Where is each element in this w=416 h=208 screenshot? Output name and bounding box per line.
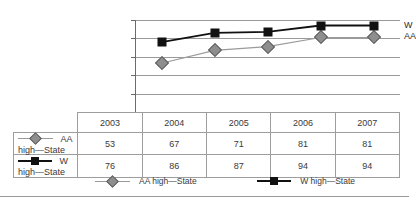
table-cell-w-2006: 94 — [271, 155, 335, 177]
table-cell-aa-2005: 71 — [206, 133, 270, 155]
table-row: W high—State 76 86 87 94 94 — [14, 155, 400, 177]
aa-series-legend-icon — [95, 177, 130, 186]
table-header-2006: 2006 — [271, 113, 335, 133]
end-annotation-aa: AA — [404, 32, 416, 41]
legend-item-aa: AA high—State — [95, 176, 197, 186]
legend-label-w: W high—State — [300, 176, 355, 186]
aa-series-key-icon — [18, 134, 53, 143]
bottom-divider — [0, 196, 409, 197]
plot-area: 100806040200 AAW — [135, 20, 400, 112]
table-cell-w-2007: 94 — [335, 155, 399, 177]
chart-legend: AA high—State W high—State — [95, 176, 355, 186]
table-cell-aa-2004: 67 — [142, 133, 206, 155]
legend-label-aa: AA high—State — [139, 176, 197, 186]
table-row: AA high—State 53 67 71 81 81 — [14, 133, 400, 155]
table-cell-aa-2003: 53 — [78, 133, 142, 155]
data-point-w-2005 — [263, 27, 272, 36]
data-point-w-2006 — [316, 21, 325, 30]
data-point-w-2007 — [369, 21, 378, 30]
table-corner-cell — [14, 113, 78, 133]
legend-item-w: W high—State — [257, 176, 355, 186]
table-row-label-w: W high—State — [14, 155, 78, 177]
end-annotation-w: W — [404, 21, 413, 30]
data-point-w-2003 — [157, 38, 166, 47]
table-header-row: 2003 2004 2005 2006 2007 — [14, 113, 400, 133]
table-cell-w-2005: 87 — [206, 155, 270, 177]
data-table: 2003 2004 2005 2006 2007 AA high—State 5… — [13, 112, 400, 178]
table-header-2004: 2004 — [142, 113, 206, 133]
table-row-label-aa: AA high—State — [14, 133, 78, 155]
table-header-2005: 2005 — [206, 113, 270, 133]
w-series-legend-icon — [257, 177, 291, 185]
w-series-key-icon — [18, 157, 52, 165]
data-point-w-2004 — [210, 28, 219, 37]
table-header-2003: 2003 — [78, 113, 142, 133]
table-cell-aa-2007: 81 — [335, 133, 399, 155]
table-cell-w-2003: 76 — [78, 155, 142, 177]
table-cell-aa-2006: 81 — [271, 133, 335, 155]
table-cell-w-2004: 86 — [142, 155, 206, 177]
table-header-2007: 2007 — [335, 113, 399, 133]
